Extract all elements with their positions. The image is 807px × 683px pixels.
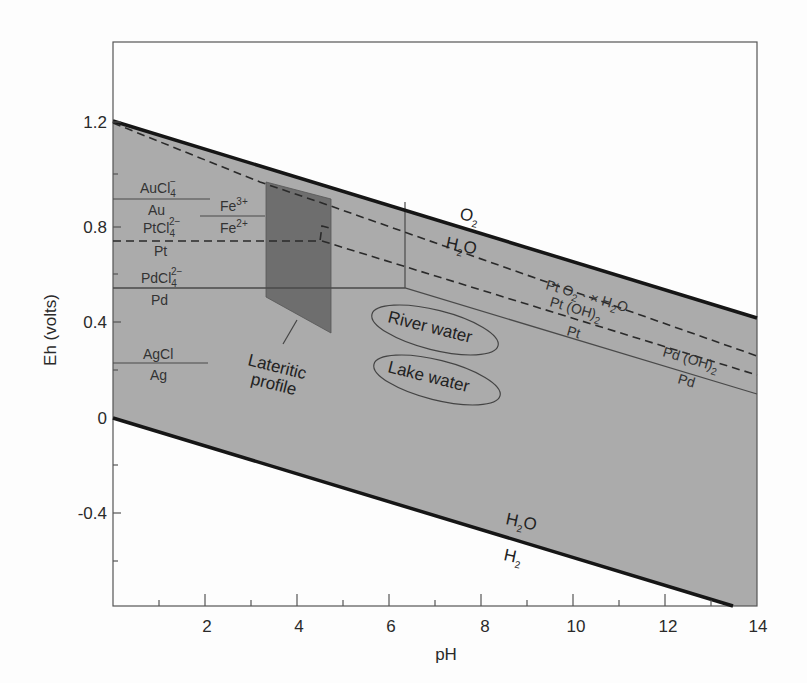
x-tick-label: 4 [294, 617, 303, 636]
x-tick-label: 2 [202, 617, 211, 636]
x-tick-label: 6 [386, 617, 395, 636]
label-ag: Ag [150, 367, 167, 383]
x-tick-label: 12 [659, 617, 678, 636]
label-au: Au [148, 202, 165, 218]
label-pd-left: Pd [151, 292, 168, 308]
label-ptcl4: PtCl42− [143, 216, 181, 239]
y-tick-label: 0 [98, 409, 107, 428]
y-tick-label: -0.4 [78, 504, 107, 523]
label-pdcl4: PdCl42− [141, 266, 182, 289]
label-aucl4: AuCl4− [140, 176, 176, 199]
y-tick-label: 0.4 [83, 313, 107, 332]
y-tick-label: 1.2 [83, 113, 107, 132]
eh-ph-diagram: 1.2 0.8 0.4 0 -0.4 2 4 6 8 10 12 14 pH E… [0, 0, 807, 683]
y-tick-label: 0.8 [83, 218, 107, 237]
label-agcl: AgCl [143, 346, 173, 362]
x-axis [159, 594, 711, 606]
label-h2: H2 [502, 545, 524, 570]
x-axis-title: pH [435, 645, 457, 664]
water-stability-field [113, 121, 757, 606]
x-tick-label: 10 [567, 617, 586, 636]
x-tick-label: 14 [749, 617, 768, 636]
label-pt-left: Pt [154, 243, 167, 259]
x-tick-label: 8 [480, 617, 489, 636]
y-axis-title: Eh (volts) [41, 294, 60, 366]
